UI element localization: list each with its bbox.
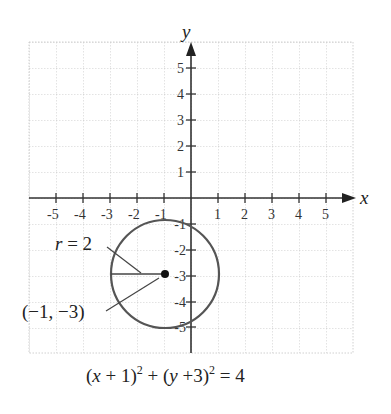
- svg-text:2: 2: [241, 207, 248, 222]
- svg-text:1: 1: [214, 207, 221, 222]
- svg-text:-2: -2: [128, 207, 140, 222]
- coordinate-plane: x y -5 -4 -3 -2 -1 1 2 3 4 5 5 4 3 2 1 -…: [0, 0, 391, 414]
- svg-text:-4: -4: [74, 207, 86, 222]
- x-axis-label: x: [359, 187, 369, 208]
- svg-text:2: 2: [177, 139, 184, 154]
- svg-text:-4: -4: [174, 295, 186, 310]
- svg-text:1: 1: [177, 165, 184, 180]
- center-point: [161, 270, 169, 278]
- svg-text:-2: -2: [174, 243, 186, 258]
- svg-text:-3: -3: [101, 207, 113, 222]
- svg-text:-5: -5: [47, 207, 59, 222]
- svg-text:3: 3: [268, 207, 275, 222]
- svg-text:3: 3: [177, 113, 184, 128]
- svg-text:-3: -3: [174, 269, 186, 284]
- svg-text:4: 4: [295, 207, 302, 222]
- svg-text:5: 5: [177, 61, 184, 76]
- equation-caption: (x + 1)2 + (y +3)2 = 4: [86, 365, 245, 387]
- radius-label: r = 2: [55, 233, 92, 254]
- svg-text:5: 5: [322, 207, 329, 222]
- y-axis-label: y: [180, 21, 191, 42]
- center-label: (−1, −3): [22, 301, 85, 323]
- svg-text:4: 4: [177, 87, 184, 102]
